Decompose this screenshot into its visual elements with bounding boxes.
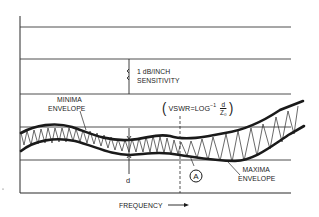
maxima-envelope-label: MAXIMA ENVELOPE (238, 166, 275, 183)
formula-vswr: VSWR (168, 104, 190, 113)
sensitivity-label: 1 dB/INCH SENSITIVITY (137, 68, 180, 85)
formula-open-paren: ( (162, 100, 166, 116)
frequency-arrow-icon (168, 203, 189, 207)
vswr-formula: ( VSWR=LOG−1 d Z₀ ) (162, 101, 233, 116)
leader-lines (80, 111, 240, 175)
minima-envelope-label: MINIMA ENVELOPE (48, 96, 85, 113)
formula-exponent: −1 (210, 102, 216, 108)
sensitivity-line2: SENSITIVITY (137, 77, 180, 86)
d-marker (127, 128, 131, 174)
minima-line2: ENVELOPE (48, 105, 85, 114)
frequency-axis-label: FREQUENCY (119, 202, 163, 211)
stray-mark (2, 188, 3, 189)
formula-fraction: d Z₀ (220, 101, 227, 116)
sensitivity-bracket (127, 59, 129, 94)
formula-denominator: Z₀ (220, 109, 227, 116)
d-label: d (126, 177, 130, 186)
formula-numerator: d (220, 101, 227, 109)
formula-close-paren: ) (229, 100, 233, 116)
formula-log: LOG (195, 104, 210, 113)
point-a-label: A (193, 172, 199, 181)
maxima-line2: ENVELOPE (238, 175, 275, 184)
